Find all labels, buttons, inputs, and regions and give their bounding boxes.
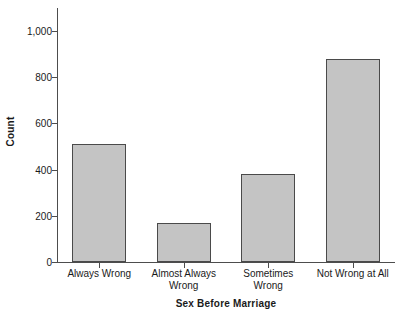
x-tick-label: Almost AlwaysWrong — [142, 268, 227, 292]
y-tick-mark — [52, 262, 57, 263]
y-axis-tick-labels: 02004006008001,000 — [16, 0, 52, 317]
x-tick-mark — [353, 263, 354, 268]
y-tick-label: 800 — [18, 72, 52, 83]
x-axis-tick-labels: Always WrongAlmost AlwaysWrongSometimesW… — [57, 268, 395, 302]
x-tick-mark — [99, 263, 100, 268]
x-axis-title: Sex Before Marriage — [57, 298, 395, 309]
x-tick-label: SometimesWrong — [226, 268, 311, 292]
x-tick-label-line: Not Wrong at All — [311, 268, 396, 280]
x-tick-label: Always Wrong — [57, 268, 142, 280]
y-tick-label: 400 — [18, 164, 52, 175]
x-tick-label-line: Sometimes — [226, 268, 311, 280]
bar-chart: Count 02004006008001,000 Always WrongAlm… — [0, 0, 404, 317]
x-tick-mark — [184, 263, 185, 268]
x-tick-label-line: Always Wrong — [57, 268, 142, 280]
y-tick-label: 200 — [18, 210, 52, 221]
y-axis-title-text: Count — [6, 116, 17, 146]
bar — [72, 144, 126, 262]
y-tick-mark — [52, 77, 57, 78]
plot-area — [57, 8, 395, 262]
x-tick-label-line: Wrong — [142, 280, 227, 292]
bar — [241, 174, 295, 262]
bar — [157, 223, 211, 262]
x-tick-label-line: Wrong — [226, 280, 311, 292]
x-tick-label-line: Almost Always — [142, 268, 227, 280]
y-tick-mark — [52, 170, 57, 171]
y-tick-label: 0 — [18, 257, 52, 268]
y-tick-mark — [52, 31, 57, 32]
y-tick-mark — [52, 216, 57, 217]
y-tick-label: 600 — [18, 118, 52, 129]
y-tick-mark — [52, 123, 57, 124]
x-tick-mark — [268, 263, 269, 268]
bar — [326, 59, 380, 262]
x-axis-line — [57, 262, 395, 263]
x-tick-label: Not Wrong at All — [311, 268, 396, 280]
y-tick-label: 1,000 — [18, 26, 52, 37]
